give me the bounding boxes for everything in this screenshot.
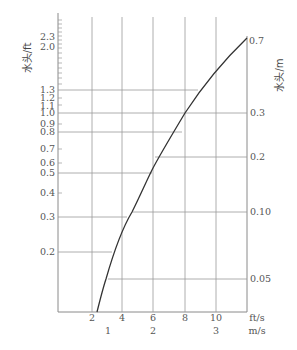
left-axis-title: 水头/ft: [22, 43, 33, 74]
svg-text:0.2: 0.2: [40, 246, 55, 257]
svg-text:0.3: 0.3: [40, 211, 55, 222]
vertical-gridlines: [92, 17, 216, 312]
svg-text:2: 2: [150, 325, 156, 336]
right-tick-labels: 0.7 0.3 0.2 0.10 0.05: [249, 35, 271, 284]
svg-text:4: 4: [119, 312, 125, 323]
svg-text:10: 10: [210, 312, 222, 323]
svg-text:2: 2: [89, 312, 95, 323]
svg-text:0.8: 0.8: [40, 126, 55, 137]
svg-text:0.7: 0.7: [40, 143, 55, 154]
svg-text:0.3: 0.3: [250, 107, 265, 118]
x-tick-labels-m-s: 1 2 3 m/s: [105, 325, 266, 336]
svg-text:0.7: 0.7: [249, 35, 264, 46]
svg-text:3: 3: [213, 325, 219, 336]
left-minor-ticks: [58, 20, 62, 193]
right-axis-title: 水头/m: [274, 58, 285, 91]
svg-text:0.10: 0.10: [250, 206, 271, 217]
svg-text:m/s: m/s: [248, 325, 265, 336]
svg-text:ft/s: ft/s: [249, 312, 265, 323]
svg-text:6: 6: [150, 312, 156, 323]
svg-text:1: 1: [105, 325, 111, 336]
svg-text:1.0: 1.0: [40, 107, 55, 118]
svg-text:0.5: 0.5: [40, 167, 55, 178]
head-velocity-curve: [97, 38, 247, 312]
svg-text:2.0: 2.0: [40, 41, 55, 52]
left-tick-labels: 2.3 2.0 1.3 1.2 1.1 1.0 0.9 0.8 0.7 0.6 …: [40, 31, 55, 257]
x-tick-labels-ft-s: 2 4 6 8 10 ft/s: [89, 312, 265, 323]
horizontal-gridlines-ft: [58, 90, 247, 252]
svg-text:0.4: 0.4: [40, 187, 55, 198]
svg-text:8: 8: [182, 312, 188, 323]
svg-text:0.05: 0.05: [250, 273, 271, 284]
chart-canvas: 2.3 2.0 1.3 1.2 1.1 1.0 0.9 0.8 0.7 0.6 …: [0, 0, 297, 350]
svg-text:0.2: 0.2: [250, 151, 265, 162]
